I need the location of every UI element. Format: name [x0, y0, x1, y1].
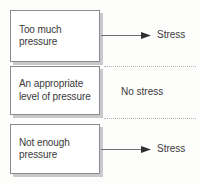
- outcome-label-stress-bottom: Stress: [157, 143, 185, 155]
- pressure-box-appropriate-line-1: An appropriate: [19, 78, 91, 91]
- pressure-box-too-much-line-2: pressure: [19, 36, 91, 49]
- dotted-separator-bottom: [104, 118, 196, 120]
- dotted-separator-top: [104, 66, 196, 68]
- pressure-box-not-enough-line-1: Not enough: [19, 137, 91, 150]
- pressure-box-appropriate: An appropriate level of pressure: [10, 66, 100, 115]
- pressure-box-too-much-line-1: Too much: [19, 24, 91, 37]
- pressure-stress-diagram: Too much pressure Stress An appropriate …: [0, 0, 199, 184]
- outcome-label-no-stress: No stress: [121, 86, 163, 98]
- arrow-not-enough-to-stress: [101, 145, 153, 154]
- arrow-too-much-to-stress: [101, 31, 153, 40]
- pressure-box-not-enough: Not enough pressure: [10, 124, 100, 174]
- pressure-box-appropriate-line-2: level of pressure: [19, 91, 91, 104]
- outcome-label-stress-top: Stress: [157, 29, 185, 41]
- pressure-box-too-much: Too much pressure: [10, 10, 100, 62]
- pressure-box-not-enough-line-2: pressure: [19, 149, 91, 162]
